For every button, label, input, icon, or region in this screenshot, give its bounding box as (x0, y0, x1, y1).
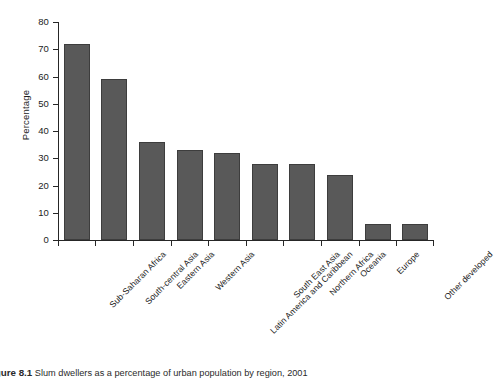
x-axis-category-label: Other developed (443, 250, 495, 302)
figure-caption-number: Figure 8.1 (0, 367, 32, 378)
y-axis-tick-label-wrap: 50 (0, 99, 49, 109)
y-axis-tick-label-wrap: 10 (0, 208, 49, 218)
y-axis-tick-label: 50 (21, 99, 49, 109)
bar (101, 79, 127, 240)
bar (402, 224, 428, 240)
bar (327, 175, 353, 240)
figure-caption: Figure 8.1 Slum dwellers as a percentage… (0, 366, 443, 378)
y-axis-tick-label: 10 (21, 208, 49, 218)
y-axis-tick-label-wrap: 40 (0, 126, 49, 136)
y-axis-tick-label: 60 (21, 72, 49, 82)
x-axis-category-label: Western Asia (214, 250, 256, 292)
bar (365, 224, 391, 240)
x-axis-category-label: Sub-Saharan Africa (108, 250, 168, 310)
y-axis-title: Percentage (21, 75, 31, 155)
y-axis-tick-label-wrap: 0 (0, 235, 49, 245)
x-axis-category-label: Latin America and Caribbean (269, 250, 355, 336)
bar (177, 150, 203, 240)
y-axis-tick-label-wrap: 30 (0, 153, 49, 163)
y-axis-tick-label-wrap: 20 (0, 181, 49, 191)
y-axis-tick-label: 30 (21, 153, 49, 163)
y-axis-tick-label: 0 (21, 235, 49, 245)
bar (214, 153, 240, 240)
y-axis-tick-label-wrap: 70 (0, 44, 49, 54)
figure-caption-text: Slum dwellers as a percentage of urban p… (35, 368, 308, 378)
y-axis-tick-label: 80 (21, 17, 49, 27)
x-axis-category-label: Europe (395, 250, 421, 276)
y-axis-tick-label-wrap: 80 (0, 17, 49, 27)
chart-plot-area: Percentage 80706050403020100 Sub-Saharan… (0, 0, 443, 300)
x-axis-category-labels: Sub-Saharan AfricaSouth-central AsiaEast… (0, 246, 443, 376)
bar-series (58, 22, 434, 240)
y-axis-tick-label-wrap: 60 (0, 72, 49, 82)
bar (139, 142, 165, 240)
y-axis-tick-label: 40 (21, 126, 49, 136)
y-axis-tick-label: 20 (21, 181, 49, 191)
bar (289, 164, 315, 240)
bar (252, 164, 278, 240)
bar (64, 44, 90, 240)
y-axis-tick-label: 70 (21, 44, 49, 54)
